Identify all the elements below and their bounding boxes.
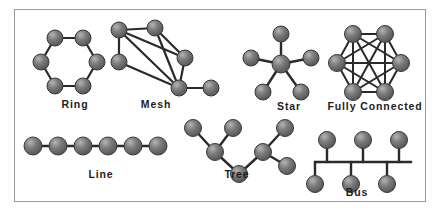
topology-label-line: Line [23,168,179,180]
mesh-graph [107,18,237,98]
fully-connected-edges [337,34,401,92]
mesh-nodes [111,20,219,96]
star-graph [243,22,335,102]
topology-line: Line [23,128,179,188]
topology-label-star: Star [243,100,335,112]
fully-connected-graph [327,22,423,102]
line-graph [23,128,179,166]
diagram-panel: Ring Mesh [14,9,426,202]
star-nodes [243,26,319,100]
topology-label-fully-connected: Fully Connected [327,100,423,112]
topology-star: Star [243,22,335,110]
topology-label-mesh: Mesh [91,98,221,110]
topology-fully-connected: Fully Connected [327,22,423,110]
topology-label-tree: Tree [179,168,295,180]
topology-bus: Bus [307,130,423,194]
topology-tree: Tree [187,118,303,188]
mesh-edges [119,28,211,88]
topology-mesh: Mesh [107,18,237,110]
topology-label-bus: Bus [299,186,415,198]
ring-nodes [33,30,105,94]
